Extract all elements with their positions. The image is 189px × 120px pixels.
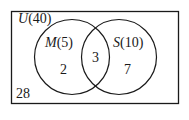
set-m-symbol: M (45, 35, 57, 50)
set-s-only-value: 7 (124, 63, 131, 77)
set-s-count: (10) (120, 35, 143, 50)
set-m-only-value: 2 (60, 63, 67, 77)
set-m-count: (5) (57, 35, 73, 50)
universe-symbol: U (18, 11, 28, 26)
universe-label: U(40) (18, 12, 51, 26)
set-s-symbol: S (113, 35, 120, 50)
universe-count: (40) (28, 11, 51, 26)
intersection-value: 3 (92, 51, 99, 65)
outside-value: 28 (16, 87, 30, 101)
set-s-label: S(10) (113, 36, 143, 50)
set-m-label: M(5) (45, 36, 73, 50)
